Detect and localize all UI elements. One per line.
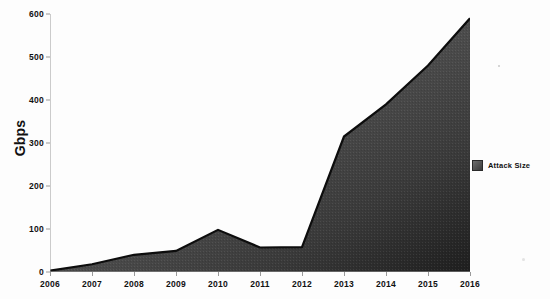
legend-label-attack-size: Attack Size	[488, 161, 530, 170]
y-tick-label: 0	[39, 267, 44, 277]
x-tick-mark	[428, 272, 429, 276]
scan-artifact-speck	[498, 65, 500, 67]
x-tick-mark	[344, 272, 345, 276]
x-tick-mark	[260, 272, 261, 276]
area-grain-texture	[50, 18, 470, 272]
y-tick-mark	[46, 229, 50, 230]
y-tick-mark	[46, 100, 50, 101]
y-tick-label: 400	[29, 95, 44, 105]
x-tick-label: 2013	[334, 279, 354, 289]
y-tick-mark	[46, 143, 50, 144]
y-tick-mark	[46, 186, 50, 187]
x-tick-label: 2014	[376, 279, 396, 289]
x-tick-mark	[50, 272, 51, 276]
x-tick-label: 2012	[292, 279, 312, 289]
chart-legend: Attack Size	[472, 160, 530, 171]
scan-artifact-speck	[522, 258, 525, 261]
x-tick-label: 2006	[40, 279, 60, 289]
x-tick-label: 2007	[82, 279, 102, 289]
x-tick-mark	[470, 272, 471, 276]
x-tick-label: 2008	[124, 279, 144, 289]
legend-swatch-attack-size	[472, 160, 483, 171]
x-tick-mark	[92, 272, 93, 276]
y-tick-label: 300	[29, 138, 44, 148]
x-tick-mark	[176, 272, 177, 276]
x-tick-label: 2011	[250, 279, 270, 289]
x-tick-mark	[386, 272, 387, 276]
x-tick-mark	[218, 272, 219, 276]
x-tick-label: 2016	[460, 279, 480, 289]
attack-size-area-chart: Gbps	[0, 0, 550, 299]
x-tick-label: 2009	[166, 279, 186, 289]
x-tick-label: 2010	[208, 279, 228, 289]
x-tick-label: 2015	[418, 279, 438, 289]
y-tick-label: 200	[29, 181, 44, 191]
y-tick-label: 100	[29, 224, 44, 234]
y-axis-title: Gbps	[12, 103, 28, 173]
x-tick-mark	[134, 272, 135, 276]
y-tick-mark	[46, 57, 50, 58]
plot-area: 0100200300400500600 20062007200820092010…	[50, 14, 470, 272]
series-attack-size	[50, 18, 470, 272]
chart-plot-svg	[50, 14, 470, 272]
y-tick-label: 600	[29, 9, 44, 19]
y-tick-mark	[46, 14, 50, 15]
x-tick-mark	[302, 272, 303, 276]
y-tick-label: 500	[29, 52, 44, 62]
